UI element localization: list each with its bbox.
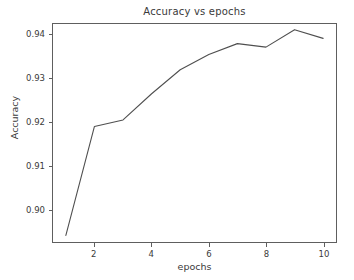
chart-title: Accuracy vs epochs	[52, 6, 337, 17]
x-tick-mark	[209, 243, 210, 247]
chart-screenshot: Accuracy vs epochs Accuracy epochs 0.900…	[0, 0, 354, 280]
x-tick-label: 6	[197, 249, 221, 259]
y-tick-label: 0.91	[17, 161, 45, 171]
line-series-svg	[53, 24, 336, 242]
x-tick-mark	[151, 243, 152, 247]
y-tick-label: 0.92	[17, 117, 45, 127]
accuracy-line	[66, 30, 323, 236]
x-tick-mark	[94, 243, 95, 247]
x-axis-label: epochs	[52, 261, 337, 272]
plot-area	[52, 23, 337, 243]
y-tick-label: 0.94	[17, 29, 45, 39]
x-tick-label: 8	[254, 249, 278, 259]
x-tick-label: 2	[82, 249, 106, 259]
x-tick-mark	[324, 243, 325, 247]
y-tick-label: 0.93	[17, 73, 45, 83]
matplotlib-figure: Accuracy vs epochs Accuracy epochs 0.900…	[0, 0, 354, 280]
y-tick-label: 0.90	[17, 205, 45, 215]
x-tick-mark	[266, 243, 267, 247]
x-tick-label: 10	[312, 249, 336, 259]
x-tick-label: 4	[139, 249, 163, 259]
